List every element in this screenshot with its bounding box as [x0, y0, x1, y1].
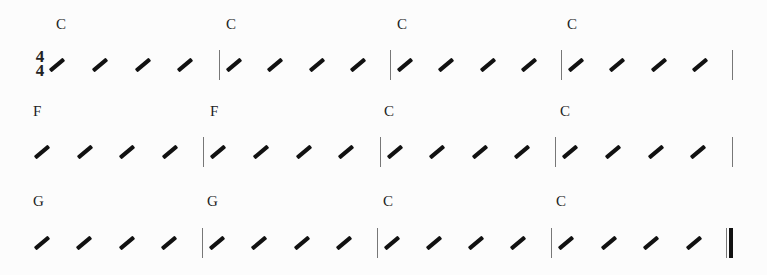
slash-beat-icon: [510, 236, 526, 251]
slash-beat-icon: [49, 58, 65, 73]
chord-symbol: C: [560, 103, 570, 120]
slash-beat-icon: [387, 145, 403, 160]
slash-beat-icon: [161, 236, 177, 251]
slash-beat-icon: [568, 58, 584, 73]
slash-beat-icon: [161, 145, 177, 160]
barline: [555, 137, 556, 167]
chord-symbol: C: [384, 103, 394, 120]
slash-beat-icon: [650, 58, 666, 73]
chord-symbol: F: [33, 103, 41, 120]
chord-symbol: C: [397, 16, 407, 33]
slash-beat-icon: [350, 58, 366, 73]
slash-beat-icon: [384, 236, 400, 251]
barline: [732, 137, 733, 167]
chord-symbol: C: [567, 16, 577, 33]
barline: [203, 137, 204, 167]
slash-beat-icon: [643, 236, 659, 251]
chord-symbol: C: [383, 193, 393, 210]
slash-beat-icon: [609, 58, 625, 73]
slash-beat-icon: [468, 236, 484, 251]
barline: [219, 50, 220, 80]
slash-beat-icon: [34, 236, 50, 251]
slash-beat-icon: [471, 145, 487, 160]
slash-beat-icon: [600, 236, 616, 251]
slash-beat-icon: [558, 236, 574, 251]
slash-beat-icon: [692, 58, 708, 73]
slash-beat-icon: [34, 145, 50, 160]
slash-beat-icon: [397, 58, 413, 73]
slash-beat-icon: [308, 58, 324, 73]
chord-symbol: G: [207, 193, 218, 210]
slash-beat-icon: [521, 58, 537, 73]
slash-beat-icon: [210, 145, 226, 160]
barline: [390, 50, 391, 80]
slash-beat-icon: [562, 145, 578, 160]
slash-beat-icon: [209, 236, 225, 251]
slash-beat-icon: [76, 145, 92, 160]
chord-symbol: F: [210, 103, 218, 120]
chord-symbol: C: [556, 193, 566, 210]
chord-symbol: C: [226, 16, 236, 33]
slash-beat-icon: [426, 236, 442, 251]
slash-beat-icon: [76, 236, 92, 251]
chord-symbol: G: [33, 193, 44, 210]
slash-beat-icon: [690, 145, 706, 160]
slash-beat-icon: [177, 58, 193, 73]
final-barline-thin: [726, 228, 727, 258]
slash-beat-icon: [685, 236, 701, 251]
slash-beat-icon: [119, 145, 135, 160]
slash-beat-icon: [514, 145, 530, 160]
slash-beat-icon: [253, 145, 269, 160]
slash-beat-icon: [92, 58, 108, 73]
slash-beat-icon: [295, 145, 311, 160]
slash-beat-icon: [251, 236, 267, 251]
chord-symbol: C: [56, 16, 66, 33]
final-barline-thick: [729, 228, 733, 258]
slash-beat-icon: [647, 145, 663, 160]
barline: [561, 50, 562, 80]
time-signature-denominator: 4: [34, 64, 46, 77]
slash-beat-icon: [336, 236, 352, 251]
barline: [551, 228, 552, 258]
slash-beat-icon: [226, 58, 242, 73]
slash-beat-icon: [338, 145, 354, 160]
barline: [380, 137, 381, 167]
barline: [377, 228, 378, 258]
slash-beat-icon: [479, 58, 495, 73]
slash-beat-icon: [267, 58, 283, 73]
barline: [732, 50, 733, 80]
slash-beat-icon: [134, 58, 150, 73]
barline: [202, 228, 203, 258]
slash-beat-icon: [429, 145, 445, 160]
slash-beat-icon: [293, 236, 309, 251]
slash-beat-icon: [118, 236, 134, 251]
slash-beat-icon: [605, 145, 621, 160]
slash-beat-icon: [438, 58, 454, 73]
